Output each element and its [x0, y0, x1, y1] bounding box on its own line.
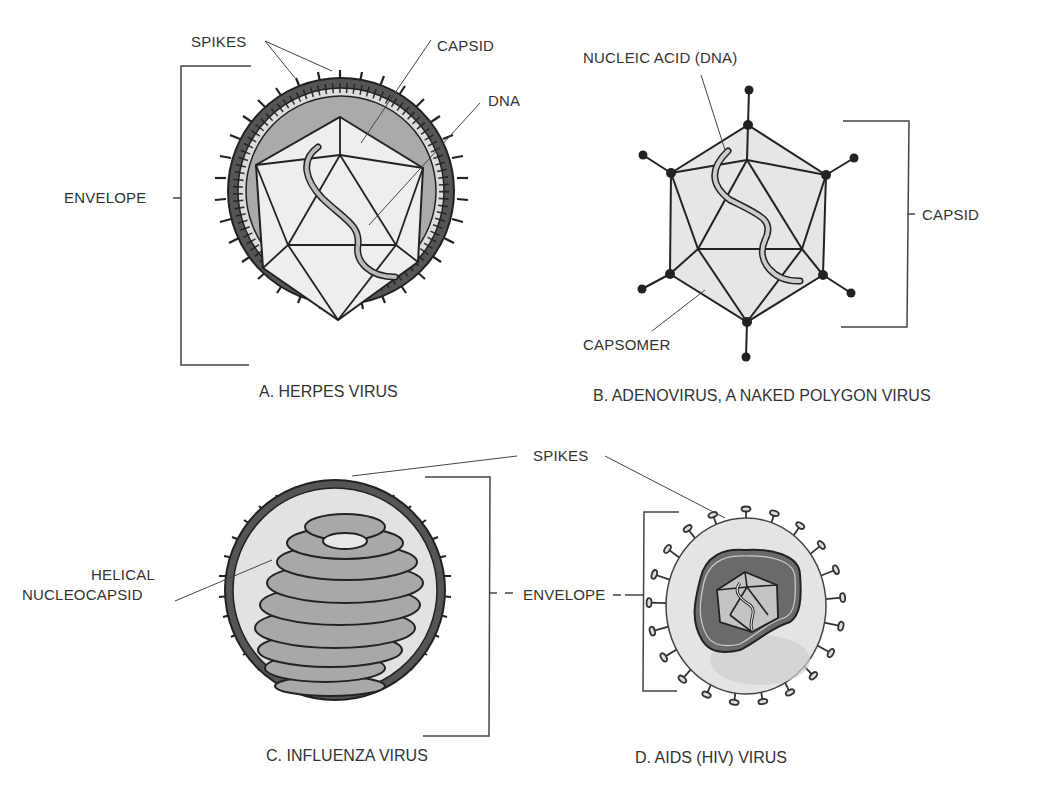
herpes-virus-illustration: [173, 40, 480, 365]
label-helical-c: HELICAL: [91, 566, 155, 583]
adenovirus-illustration: [638, 75, 916, 362]
caption-influenza: C. INFLUENZA VIRUS: [266, 747, 428, 765]
caption-hiv: D. AIDS (HIV) VIRUS: [635, 749, 787, 767]
caption-adenovirus: B. ADENOVIRUS, A NAKED POLYGON VIRUS: [593, 387, 931, 405]
label-capsomer-b: CAPSOMER: [583, 336, 670, 353]
caption-herpes: A. HERPES VIRUS: [259, 383, 398, 401]
label-capsid-a: CAPSID: [437, 37, 494, 54]
label-envelope-a: ENVELOPE: [64, 189, 146, 206]
label-envelope-shared: ENVELOPE: [523, 586, 605, 603]
label-capsid-b: CAPSID: [922, 206, 979, 223]
label-nucleocapsid-c: NUCLEOCAPSID: [22, 586, 143, 603]
influenza-virus-illustration: [175, 456, 517, 736]
label-spikes-shared: SPIKES: [533, 447, 588, 464]
label-spikes-a: SPIKES: [191, 33, 246, 50]
label-dna-a: DNA: [488, 92, 520, 109]
label-nucleic-acid-b: NUCLEIC ACID (DNA): [583, 49, 737, 66]
